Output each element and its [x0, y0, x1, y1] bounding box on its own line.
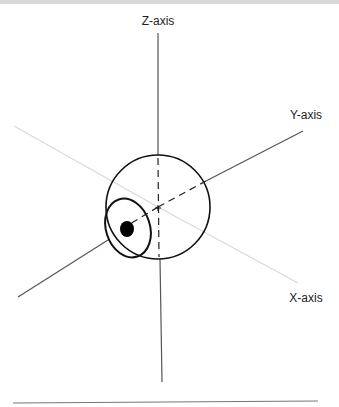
z-axis-label: Z-axis: [142, 14, 175, 28]
y-axis-line: [206, 131, 303, 181]
y-axis-label: Y-axis: [290, 108, 322, 122]
bottom-rule: [13, 401, 318, 403]
x-axis-positive: [158, 207, 298, 283]
y-axis-negative: [14, 126, 158, 207]
pupil-dot: [120, 221, 134, 237]
x-axis-negative-line: [18, 240, 108, 297]
x-axis-label: X-axis: [289, 291, 322, 305]
z-axis-line-lower: [160, 259, 162, 382]
y-axis-hidden: [158, 181, 206, 207]
coordinate-diagram: Z-axis Y-axis X-axis: [0, 0, 339, 407]
